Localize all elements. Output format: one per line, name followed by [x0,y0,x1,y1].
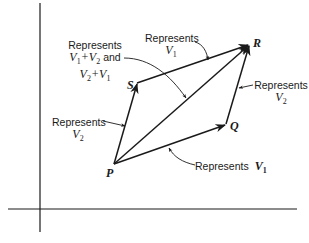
annotation-bottom-v1: Represents V1 [195,160,267,177]
annotation-sum-eq1: V1+V2 and [62,51,128,68]
annotation-top-v1-symbol: V1 [145,44,197,61]
point-label-Q: Q [230,119,239,134]
leader-left-v2 [103,121,125,126]
annotation-right-v2: Represents V2 [254,79,308,108]
vector-PR-resultant [114,46,248,164]
annotation-bottom-v1-word: Represents [195,160,249,172]
vector-addition-diagram: P Q R S Represents V1+V2 and V2+V1 Repre… [0,0,309,243]
annotation-left-v2: Represents V2 [52,116,104,145]
point-label-R: R [253,36,261,51]
vector-PQ [114,125,225,164]
leader-bottom-v1 [169,148,195,165]
vector-QR [226,46,249,124]
point-label-S: S [127,78,134,93]
leader-right-v2 [239,85,253,88]
annotation-top-v1: Represents V1 [145,32,197,61]
annotation-sum: Represents V1+V2 and V2+V1 [62,39,128,86]
annotation-left-v2-symbol: V2 [52,128,104,145]
annotation-bottom-v1-symbol: V1 [252,159,267,173]
point-label-P: P [106,166,113,181]
annotation-sum-eq2: V2+V1 [62,68,128,85]
annotation-right-v2-symbol: V2 [254,91,308,108]
